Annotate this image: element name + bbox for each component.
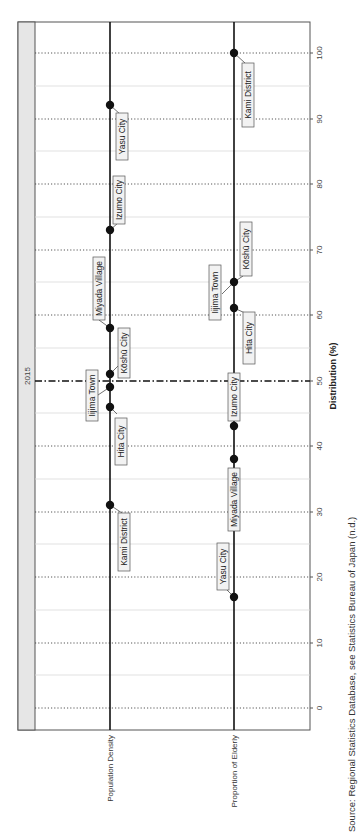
data-point <box>106 324 114 332</box>
data-point <box>106 501 114 509</box>
tick-label: 100 <box>315 46 324 60</box>
data-label: Kōshū City <box>119 332 129 374</box>
data-point <box>230 49 238 57</box>
tick-label: 70 <box>315 245 324 254</box>
data-label: Miyada Village <box>94 261 104 316</box>
tick-label: 80 <box>315 179 324 188</box>
tick-label: 40 <box>315 441 324 450</box>
data-label: Izumo City <box>114 179 124 220</box>
axis-tick-labels: 0 10 20 30 40 50 60 70 80 90 100 <box>315 46 324 710</box>
data-label: Izumo City <box>229 376 239 417</box>
data-label: Iijima Town <box>87 374 97 416</box>
panel-header-label: 2015 <box>23 367 32 385</box>
tick-label: 0 <box>315 705 324 710</box>
data-point <box>230 455 238 463</box>
data-point <box>106 370 114 378</box>
data-point <box>106 403 114 411</box>
data-point <box>106 383 114 391</box>
data-point <box>230 304 238 312</box>
data-label: Kōshū City <box>241 228 251 270</box>
tick-label: 90 <box>315 114 324 123</box>
data-label: Hita City <box>244 321 254 354</box>
data-label: Yasu City <box>218 548 228 584</box>
tick-label: 50 <box>315 376 324 385</box>
category-label-proportion-elderly: Proportion of Elderly <box>230 735 239 807</box>
data-point <box>230 422 238 430</box>
data-label: Miyada Village <box>229 472 239 527</box>
data-label: Yasu City <box>117 118 127 154</box>
data-point <box>106 101 114 109</box>
data-point <box>230 278 238 286</box>
tick-label: 20 <box>315 572 324 581</box>
data-label: Kami District <box>119 518 129 566</box>
tick-label: 10 <box>315 638 324 647</box>
axis-title: Distribution (%) <box>328 343 338 410</box>
data-point <box>106 226 114 234</box>
data-label: Kami District <box>243 71 253 119</box>
tick-label: 60 <box>315 310 324 319</box>
data-label: Iijima Town <box>210 271 220 313</box>
dot-plot-chart: 2015 <box>0 0 359 835</box>
data-label: Hita City <box>116 425 126 458</box>
data-point <box>230 593 238 601</box>
tick-label: 30 <box>315 507 324 516</box>
category-label-population-density: Population Density <box>106 735 115 802</box>
source-note: Source: Regional Statistics Database, se… <box>346 517 357 832</box>
plot-frame <box>18 22 310 730</box>
